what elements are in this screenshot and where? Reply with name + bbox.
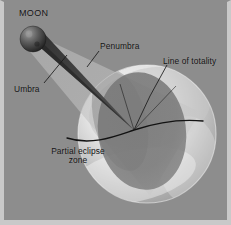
eclipse-diagram-figure: MOON Penumbra Line of totality Umbra Par… bbox=[0, 0, 231, 225]
label-partial-eclipse-zone: Partial eclipse zone bbox=[39, 147, 117, 166]
label-partial-eclipse-zone-line2: zone bbox=[39, 156, 117, 165]
moon-sphere bbox=[20, 26, 46, 52]
label-line-of-totality: Line of totality bbox=[163, 57, 216, 66]
label-umbra: Umbra bbox=[14, 85, 40, 94]
label-moon: MOON bbox=[19, 8, 48, 18]
label-penumbra: Penumbra bbox=[100, 42, 139, 51]
eclipse-diagram-canvas bbox=[0, 0, 231, 225]
